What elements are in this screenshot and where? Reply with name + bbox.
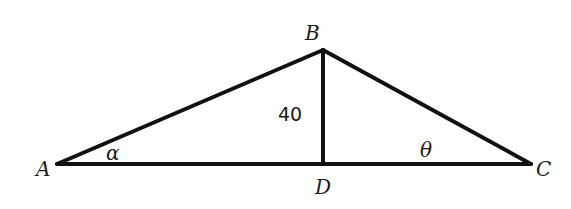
- altitude-length-label: 40: [278, 103, 302, 125]
- vertex-label-c: C: [536, 157, 551, 181]
- vertex-label-b: B: [304, 21, 320, 45]
- diagram-canvas: B D A C α θ 40: [0, 0, 571, 209]
- angle-label-alpha: α: [106, 141, 120, 165]
- vertex-label-a: A: [34, 157, 50, 181]
- triangle-diagram: B D A C α θ 40: [0, 0, 571, 209]
- vertex-label-d: D: [314, 175, 331, 199]
- angle-label-theta: θ: [420, 138, 432, 162]
